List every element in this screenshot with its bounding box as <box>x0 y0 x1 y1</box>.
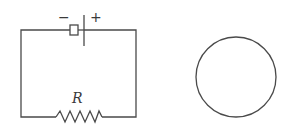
battery-negative-plate <box>70 25 78 35</box>
wire-right <box>84 30 136 117</box>
battery-negative-label: − <box>58 9 70 25</box>
resistor-zigzag <box>56 111 102 122</box>
empty-circle <box>196 37 276 117</box>
resistor-label: R <box>71 90 83 106</box>
diagram-canvas: − + R <box>0 0 289 129</box>
wire-left <box>21 30 70 117</box>
battery-positive-label: + <box>90 9 102 25</box>
circuit: − + R <box>21 9 136 122</box>
